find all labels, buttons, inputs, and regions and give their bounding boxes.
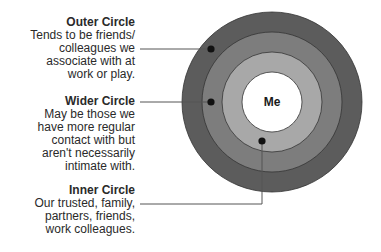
wider-marker-dot <box>207 98 214 105</box>
outer-circle-label: Outer Circle Tends to be friends/ collea… <box>30 16 135 81</box>
outer-circle-description: Tends to be friends/ colleagues we assoc… <box>30 29 135 81</box>
inner-circle-description: Our trusted, family, partners, friends, … <box>35 197 135 236</box>
inner-marker-dot <box>258 137 265 144</box>
me-label: Me <box>252 95 292 109</box>
outer-marker-dot <box>207 45 214 52</box>
wider-circle-description: May be those we have more regular contac… <box>38 108 135 173</box>
inner-circle-label: Inner Circle Our trusted, family, partne… <box>35 184 135 236</box>
wider-circle-label: Wider Circle May be those we have more r… <box>38 95 135 173</box>
